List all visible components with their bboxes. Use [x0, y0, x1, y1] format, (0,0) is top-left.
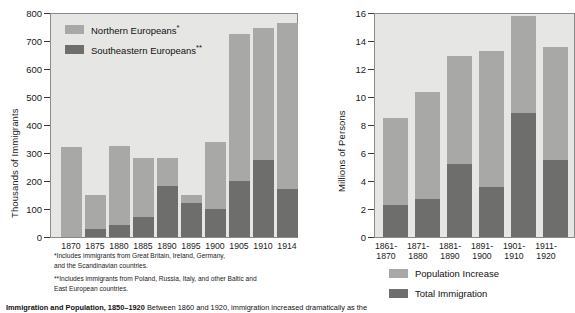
left-y-tick-400: 400: [16, 121, 42, 131]
right-chart: Millions of Persons 16 14 12 10 8 6 4 2 …: [330, 0, 575, 250]
legend-swatch-southeastern-europeans-icon: [65, 45, 84, 54]
figure-caption: Immigration and Population, 1850–1920 Be…: [6, 303, 562, 313]
bar-1890-southeastern: [157, 186, 178, 237]
figure-caption-lead: Immigration and Population, 1850–1920: [6, 303, 145, 312]
bar-1861-1870-immigration: [383, 205, 408, 237]
left-chart-plot-area: Northern Europeans* Southeastern Europea…: [50, 13, 298, 238]
legend-item-total-immigration: Total Immigration: [389, 288, 487, 299]
legend-item-northern-europeans: Northern Europeans*: [65, 23, 179, 36]
bar-1895-southeastern: [181, 203, 202, 237]
left-y-tick-0: 0: [16, 233, 42, 243]
right-y-tick-14: 14: [344, 37, 366, 47]
right-x-tick-1911-1920-line1: 1911-: [522, 241, 570, 251]
legend-swatch-total-immigration-icon: [389, 289, 408, 298]
bar-1914-southeastern: [277, 189, 298, 237]
left-y-tick-200: 200: [16, 177, 42, 187]
legend-item-southeastern-europeans: Southeastern Europeans**: [65, 43, 202, 56]
left-y-tick-600: 600: [16, 65, 42, 75]
left-y-tick-100: 100: [16, 205, 42, 215]
bar-1880-northern: [109, 146, 130, 237]
footnote-southeastern-europeans: **Includes immigrants from Poland, Russi…: [54, 274, 304, 293]
right-y-tick-8: 8: [344, 121, 366, 131]
legend-swatch-population-increase-icon: [389, 269, 408, 278]
left-chart: Thousands of Immigrants 800 700 600 500 …: [0, 0, 300, 250]
right-x-tick-1911-1920-line2: 1920: [522, 251, 570, 261]
right-y-tick-2: 2: [344, 205, 366, 215]
right-y-tick-10: 10: [344, 93, 366, 103]
left-y-tick-500: 500: [16, 93, 42, 103]
bar-1901-1910-immigration: [511, 113, 536, 237]
bar-1871-1880-immigration: [415, 199, 440, 237]
bar-1875-southeastern: [85, 229, 106, 237]
right-y-tick-6: 6: [344, 149, 366, 159]
left-y-tick-700: 700: [16, 37, 42, 47]
legend-label-population-increase: Population Increase: [415, 268, 499, 279]
bar-1910-southeastern: [253, 160, 274, 237]
right-y-tick-12: 12: [344, 65, 366, 75]
legend-item-population-increase: Population Increase: [389, 268, 499, 279]
right-y-tick-4: 4: [344, 177, 366, 187]
bar-1911-1920-immigration: [543, 160, 568, 237]
bar-1881-1890-immigration: [447, 164, 472, 237]
left-y-tick-800: 800: [16, 9, 42, 19]
legend-label-total-immigration: Total Immigration: [415, 288, 487, 299]
right-chart-plot-area: [374, 13, 575, 238]
legend-label-southeastern-europeans: Southeastern Europeans**: [91, 43, 202, 56]
left-y-tick-300: 300: [16, 149, 42, 159]
bar-1885-southeastern: [133, 217, 154, 237]
legend-label-northern-europeans: Northern Europeans*: [91, 23, 179, 36]
figure-caption-body: Between 1860 and 1920, immigration incre…: [145, 303, 367, 312]
right-y-tick-16: 16: [344, 9, 366, 19]
bar-1891-1900-immigration: [479, 187, 504, 237]
bar-1905-southeastern: [229, 181, 250, 237]
bar-1880-southeastern: [109, 225, 130, 237]
footnote-northern-europeans: *Includes immigrants from Great Britain,…: [54, 251, 294, 270]
legend-swatch-northern-europeans-icon: [65, 25, 84, 34]
bar-1900-southeastern: [205, 209, 226, 237]
right-x-tick-1911-1920: 1911- 1920: [522, 241, 570, 261]
bar-1870-northern: [61, 147, 82, 237]
left-x-tick-1914: 1914: [262, 241, 312, 251]
